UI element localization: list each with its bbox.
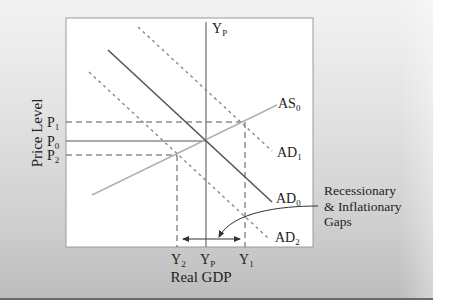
plot-area <box>66 18 313 247</box>
p1-label: P1 <box>47 115 59 132</box>
y2-label: Y2 <box>171 252 186 269</box>
yp-bottom-label: YP <box>200 252 215 269</box>
y1-label: Y1 <box>239 252 254 269</box>
as-ad-diagram: Price Level P1 P0 P2 YP AS0 AD1 AD0 AD2 … <box>0 0 457 306</box>
gap-annotation: Recessionary & Inflationary Gaps <box>324 183 405 229</box>
x-axis-label: Real GDP <box>170 269 231 285</box>
y-axis-label: Price Level <box>29 99 45 168</box>
